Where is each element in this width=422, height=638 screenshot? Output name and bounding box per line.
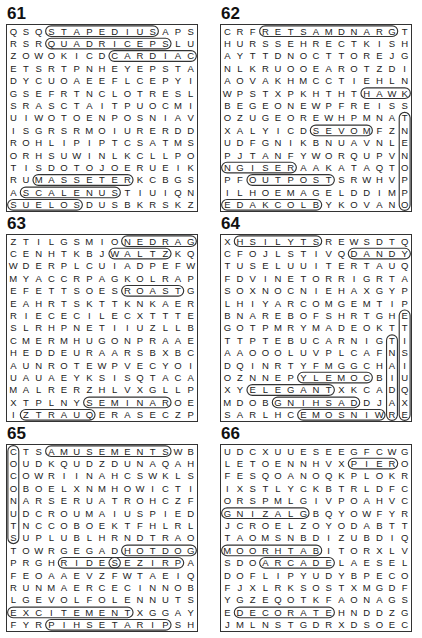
grid-letter: Y xyxy=(234,384,247,396)
grid-letter: C xyxy=(159,99,172,111)
grid-letter: N xyxy=(20,519,33,531)
grid-letter: S xyxy=(45,495,58,507)
grid-letter: R xyxy=(246,37,259,49)
grid-letter: H xyxy=(297,37,310,49)
grid-letter: C xyxy=(284,285,297,297)
grid-letter: V xyxy=(398,544,411,556)
grid-letter: S xyxy=(386,37,399,49)
grid-letter: I xyxy=(83,137,96,149)
grid-letter: I xyxy=(146,557,159,569)
grid-letter: R xyxy=(272,581,285,593)
grid-letter: A xyxy=(246,199,259,211)
puzzle-61: 61 QSQSTAPEDIUSAPSRSRQUADRICEPSLUZOWOKIC… xyxy=(4,4,202,212)
grid-letter: N xyxy=(297,470,310,482)
grid-letter: P xyxy=(58,260,71,272)
grid-letter: S xyxy=(386,99,399,111)
grid-letter: L xyxy=(172,37,185,49)
grid-letter: Z xyxy=(134,557,147,569)
grid-letter: C xyxy=(259,606,272,618)
grid-letter: D xyxy=(335,322,348,334)
grid-letter: I xyxy=(172,569,185,581)
grid-letter: E xyxy=(322,124,335,136)
grid-letter: U xyxy=(246,112,259,124)
grid-letter: W xyxy=(7,260,20,272)
grid-letter: M xyxy=(360,297,373,309)
grid-letter: I xyxy=(7,124,20,136)
grid-letter: B xyxy=(259,396,272,408)
grid-letter: H xyxy=(32,137,45,149)
grid-letter: S xyxy=(108,199,121,211)
grid-letter: Q xyxy=(398,235,411,247)
grid-letter: M xyxy=(322,25,335,37)
grid-letter: C xyxy=(96,87,109,99)
grid-letter: U xyxy=(121,507,134,519)
grid-letter: N xyxy=(96,149,109,161)
grid-letter: V xyxy=(45,594,58,606)
grid-letter: O xyxy=(335,519,348,531)
grid-letter: Y xyxy=(221,594,234,606)
grid-letter: R xyxy=(159,235,172,247)
grid-letter: G xyxy=(7,87,20,99)
grid-letter: Q xyxy=(398,384,411,396)
grid-letter: O xyxy=(172,396,185,408)
grid-letter: U xyxy=(310,569,323,581)
grid-letter: N xyxy=(246,371,259,383)
grid-letter: T xyxy=(58,285,71,297)
grid-letter: R xyxy=(272,359,285,371)
grid-letter: R xyxy=(134,50,147,62)
grid-letter: S xyxy=(108,557,121,569)
grid-letter: O xyxy=(32,482,45,494)
grid-letter: O xyxy=(348,62,361,74)
grid-letter: U xyxy=(297,347,310,359)
grid-letter: T xyxy=(58,62,71,74)
grid-letter: I xyxy=(322,532,335,544)
grid-letter: R xyxy=(32,322,45,334)
grid-letter: J xyxy=(234,581,247,593)
grid-letter: L xyxy=(159,384,172,396)
grid-letter: F xyxy=(20,285,33,297)
grid-letter: P xyxy=(134,334,147,346)
grid-letter: J xyxy=(221,619,234,631)
grid-letter: O xyxy=(398,457,411,469)
grid-letter: I xyxy=(184,75,197,87)
grid-letter: R xyxy=(335,334,348,346)
grid-letter: V xyxy=(121,384,134,396)
grid-letter: A xyxy=(172,532,185,544)
grid-letter: P xyxy=(398,297,411,309)
grid-letter: U xyxy=(159,594,172,606)
grid-letter: L xyxy=(398,557,411,569)
grid-letter: L xyxy=(159,149,172,161)
grid-letter: P xyxy=(32,532,45,544)
grid-letter: B xyxy=(70,519,83,531)
grid-letter: C xyxy=(134,75,147,87)
grid-letter: O xyxy=(348,371,361,383)
grid-letter: T xyxy=(335,50,348,62)
grid-letter: E xyxy=(335,260,348,272)
grid-letter: E xyxy=(373,569,386,581)
grid-letter: A xyxy=(121,619,134,631)
grid-letter: V xyxy=(322,457,335,469)
grid-letter: A xyxy=(58,409,71,421)
grid-letter: A xyxy=(20,384,33,396)
grid-letter: P xyxy=(234,87,247,99)
grid-letter: P xyxy=(398,174,411,186)
grid-letter: A xyxy=(360,519,373,531)
grid-letter: O xyxy=(96,594,109,606)
grid-letter: R xyxy=(146,199,159,211)
grid-letter: N xyxy=(221,62,234,74)
grid-letter: L xyxy=(58,482,71,494)
grid-letter: Q xyxy=(45,37,58,49)
grid-letter: A xyxy=(335,396,348,408)
grid-letter: S xyxy=(310,124,323,136)
puzzle-64: 64 XHSILYTSREWSDTQCFOJLSTIVQDANDYTUSELUU… xyxy=(218,214,416,422)
grid-letter: S xyxy=(83,396,96,408)
grid-letter: Y xyxy=(297,371,310,383)
grid-letter: G xyxy=(398,50,411,62)
grid-letter: L xyxy=(45,137,58,149)
grid-letter: T xyxy=(297,235,310,247)
grid-letter: E xyxy=(221,199,234,211)
grid-letter: E xyxy=(20,247,33,259)
grid-letter: E xyxy=(322,445,335,457)
grid-letter: G xyxy=(184,235,197,247)
grid-letter: I xyxy=(108,322,121,334)
